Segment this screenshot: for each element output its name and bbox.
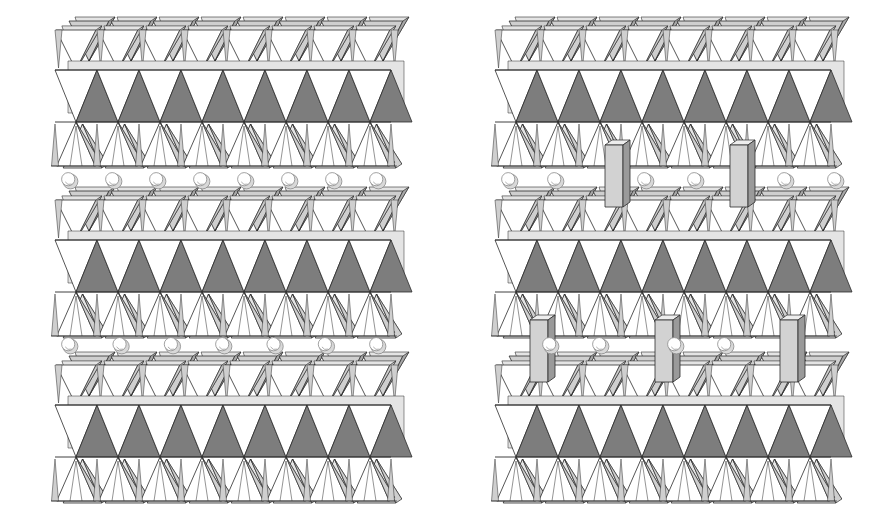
cation-sphere — [638, 173, 654, 189]
cation-sphere — [502, 173, 518, 189]
panel-pillared — [0, 0, 883, 517]
sheet-central-row — [495, 61, 852, 122]
sheet-central-row — [495, 231, 852, 292]
interlayer-pillar — [730, 140, 755, 207]
pillar-front-face — [605, 145, 623, 207]
cation-sphere — [593, 338, 609, 354]
cation-row-1 — [543, 338, 734, 354]
tetra-edge-sliver — [495, 200, 502, 238]
sheet-central-row — [495, 396, 852, 457]
pillar-front-face — [780, 320, 798, 382]
pillar-side-face — [798, 315, 805, 382]
cation-sphere — [548, 173, 564, 189]
cation-sphere — [688, 173, 704, 189]
tetra-edge-sliver — [495, 365, 502, 403]
cation-sphere — [718, 338, 734, 354]
tetrahedral-sheet-0 — [491, 17, 852, 168]
cation-row-0 — [502, 173, 844, 189]
tetra-edge-sliver — [492, 294, 499, 336]
cation-sphere — [778, 173, 794, 189]
sheet-lower-row — [491, 122, 842, 168]
interlayer-pillar — [780, 315, 805, 382]
tetra-edge-sliver — [495, 30, 502, 68]
tetra-edge-sliver — [492, 459, 499, 501]
sheet-lower-row — [491, 457, 842, 503]
pillar-front-face — [730, 145, 748, 207]
pillared-structure — [0, 0, 883, 517]
pillar-side-face — [623, 140, 630, 207]
interlayer-pillar — [605, 140, 630, 207]
tetra-edge-sliver — [492, 124, 499, 166]
crystal-structure-figure — [0, 0, 883, 517]
pillar-side-face — [748, 140, 755, 207]
cation-sphere — [828, 173, 844, 189]
